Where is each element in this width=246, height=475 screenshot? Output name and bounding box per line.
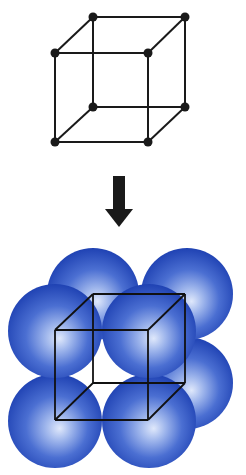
lattice-point [144,138,153,147]
lattice-point [89,13,98,22]
lattice-point [89,103,98,112]
lattice-point [181,103,190,112]
lattice-cube [55,17,185,142]
unit-cell-diagram [0,0,246,475]
sphere-front-bottom-right [102,374,196,468]
lattice-point [51,138,60,147]
lattice-point [144,49,153,58]
lattice-point [51,49,60,58]
diagram-canvas [0,0,246,475]
sphere-packing [8,248,233,468]
down-arrow-icon [105,176,133,227]
lattice-point [181,13,190,22]
